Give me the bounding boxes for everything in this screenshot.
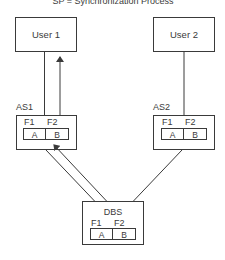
as1-field-f2: F2 [47, 117, 58, 127]
as1-field-f1: F1 [24, 117, 35, 127]
as1-cell-a: A [32, 130, 38, 140]
as2-cell-a: A [170, 130, 176, 140]
user2-node: User 2 [154, 18, 215, 52]
user1-label: User 1 [32, 29, 60, 40]
dbs-node: DBS F1 F2 A B [83, 202, 144, 245]
as2-field-f2: F2 [185, 117, 196, 127]
dbs-label: DBS [104, 207, 123, 217]
as2-cell-b: B [192, 130, 198, 140]
as1-node: AS1 F1 F2 A B [16, 102, 77, 150]
dbs-cell-b: B [121, 230, 127, 240]
as1-label: AS1 [16, 102, 33, 112]
dbs-field-f2: F2 [114, 218, 125, 228]
dbs-field-f1: F1 [91, 218, 102, 228]
user2-label: User 2 [170, 29, 198, 40]
dbs-cell-a: A [99, 230, 105, 240]
as2-field-f1: F1 [162, 117, 173, 127]
arrow-up-left-icon [54, 145, 107, 202]
as2-label: AS2 [153, 102, 170, 112]
caption: SP = Synchronization Process [52, 0, 174, 6]
as1-cell-b: B [54, 130, 60, 140]
diagram-canvas: SP = Synchronization Process User 1 User… [0, 0, 225, 260]
edge-dbs-as1 [46, 145, 107, 202]
edge-dbs-as2 [133, 150, 182, 202]
edge-as1-user1 [45, 52, 61, 116]
user1-node: User 1 [16, 18, 77, 52]
